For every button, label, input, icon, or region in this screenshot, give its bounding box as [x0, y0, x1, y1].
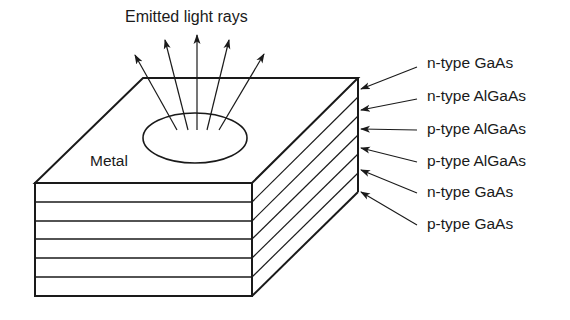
layer-label-4: p-type AlGaAs — [427, 153, 526, 169]
metal-label: Metal — [90, 153, 128, 169]
pointer-arrow-1 — [361, 67, 417, 89]
pointer-arrow-2 — [361, 99, 417, 110]
layer-label-3: p-type AlGaAs — [427, 121, 526, 137]
layer-label-1: n-type GaAs — [427, 55, 513, 71]
pointer-arrow-5 — [361, 170, 417, 193]
emitted-light-rays-label: Emitted light rays — [125, 9, 248, 25]
led-heterostructure-diagram: Emitted light rays Metal n-type GaAs n-t… — [0, 0, 570, 320]
pointer-arrow-4 — [361, 148, 417, 162]
layer-label-6: p-type GaAs — [427, 216, 513, 232]
pointer-arrow-3 — [361, 129, 417, 130]
pointer-arrow-6 — [361, 192, 417, 225]
front-face-layers — [35, 183, 252, 296]
layer-label-2: n-type AlGaAs — [427, 88, 526, 104]
layer-pointer-arrows — [361, 67, 417, 225]
layer-label-5: n-type GaAs — [427, 184, 513, 200]
